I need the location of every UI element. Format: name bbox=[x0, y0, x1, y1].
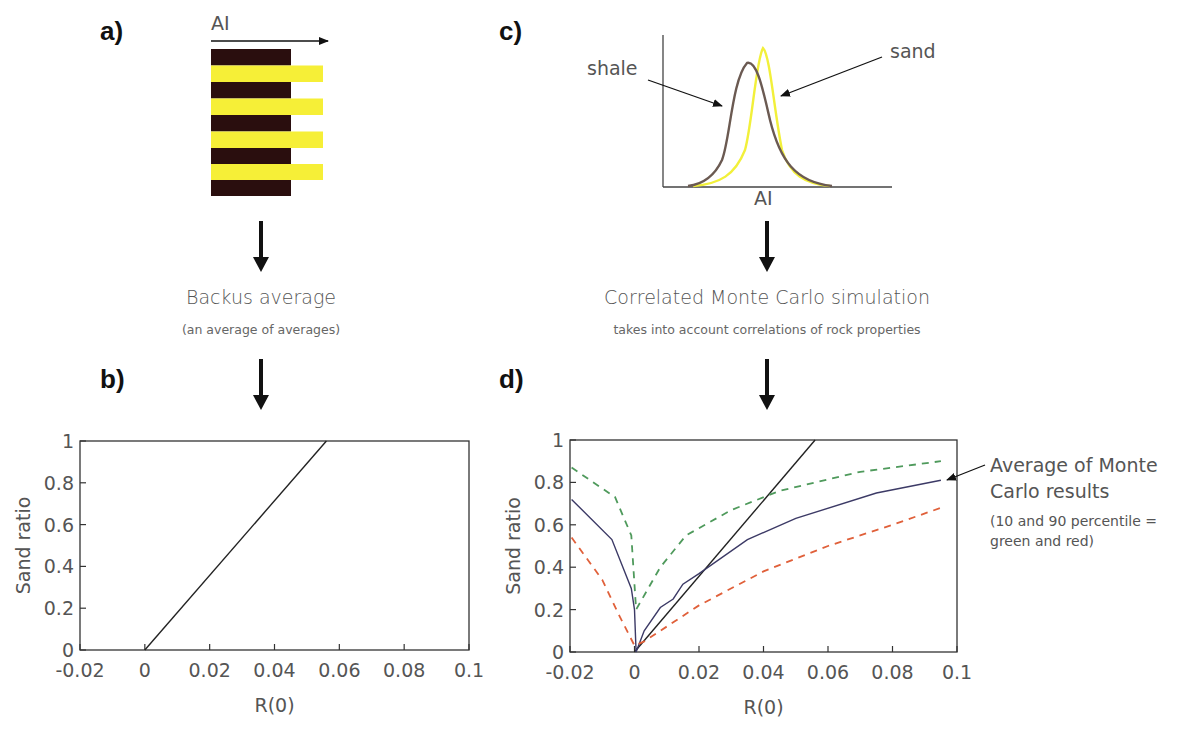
ai-axis-label-c: AI bbox=[754, 187, 773, 209]
y-tick-label: 0.2 bbox=[534, 599, 564, 621]
sand-layer bbox=[211, 66, 323, 83]
x-tick-label: 0.06 bbox=[807, 661, 849, 683]
y-tick-label: 0 bbox=[552, 641, 564, 663]
y-axis-label: Sand ratio bbox=[12, 497, 34, 595]
chart-b-plot: -0.0200.020.040.060.080.100.20.40.60.81R… bbox=[12, 430, 484, 716]
distribution-chart bbox=[648, 35, 892, 187]
sand-curve bbox=[693, 48, 830, 186]
y-axis-label: Sand ratio bbox=[502, 497, 524, 595]
annotation-line2: Carlo results bbox=[990, 480, 1109, 502]
x-tick-label: 0 bbox=[139, 659, 151, 681]
x-axis-label: R(0) bbox=[743, 696, 783, 718]
monte-carlo-title: Correlated Monte Carlo simulation bbox=[567, 286, 967, 308]
y-tick-label: 0.2 bbox=[44, 597, 74, 619]
annotation-line1: Average of Monte bbox=[990, 454, 1158, 476]
backus-subtitle: (an average of averages) bbox=[161, 322, 361, 337]
annotation-line3: (10 and 90 percentile = bbox=[990, 513, 1157, 529]
x-tick-label: 0 bbox=[628, 661, 640, 683]
x-tick-label: 0.08 bbox=[871, 661, 913, 683]
x-tick-label: 0.02 bbox=[678, 661, 720, 683]
monte-carlo-subtitle: takes into account correlations of rock … bbox=[567, 322, 967, 337]
annotation-arrow-icon bbox=[947, 465, 985, 480]
layer-stack bbox=[211, 49, 323, 196]
x-tick-label: 0.02 bbox=[189, 659, 231, 681]
shale-layer bbox=[211, 82, 291, 99]
y-tick-label: 0 bbox=[62, 639, 74, 661]
flow-arrow-icon bbox=[253, 221, 775, 410]
series-average-of-monte-carlo-results bbox=[572, 480, 941, 652]
x-tick-label: 0.04 bbox=[742, 661, 784, 683]
sand-layer bbox=[211, 99, 323, 116]
shale-label: shale bbox=[587, 57, 638, 79]
shale-layer bbox=[211, 148, 291, 164]
x-axis-label: R(0) bbox=[254, 694, 294, 716]
shale-layer bbox=[211, 49, 291, 66]
figure-canvas: -0.0200.020.040.060.080.100.20.40.60.81R… bbox=[0, 0, 1187, 733]
x-tick-label: 0.08 bbox=[383, 659, 425, 681]
y-tick-label: 0.6 bbox=[44, 514, 74, 536]
x-tick-label: -0.02 bbox=[545, 661, 594, 683]
y-tick-label: 0.4 bbox=[44, 555, 74, 577]
sand-label: sand bbox=[890, 40, 936, 62]
sand-layer bbox=[211, 132, 323, 149]
x-tick-label: 0.06 bbox=[318, 659, 360, 681]
sand-layer bbox=[211, 164, 323, 180]
shale-layer bbox=[211, 180, 291, 196]
x-tick-label: 0.1 bbox=[454, 659, 484, 681]
backus-title: Backus average bbox=[161, 286, 361, 308]
y-tick-label: 1 bbox=[552, 429, 564, 451]
annotation-line4: green and red) bbox=[990, 533, 1094, 549]
series-backus-average bbox=[145, 441, 327, 650]
y-tick-label: 0.8 bbox=[534, 471, 564, 493]
chart-d-plot: -0.0200.020.040.060.080.100.20.40.60.81R… bbox=[502, 429, 972, 718]
shale-curve bbox=[688, 63, 832, 186]
shale-layer bbox=[211, 115, 291, 132]
x-tick-label: 0.04 bbox=[253, 659, 295, 681]
series-backus-average bbox=[635, 440, 816, 652]
x-tick-label: -0.02 bbox=[55, 659, 104, 681]
y-tick-label: 0.8 bbox=[44, 472, 74, 494]
y-tick-label: 0.6 bbox=[534, 514, 564, 536]
y-tick-label: 1 bbox=[62, 430, 74, 452]
x-tick-label: 0.1 bbox=[942, 661, 972, 683]
y-tick-label: 0.4 bbox=[534, 556, 564, 578]
